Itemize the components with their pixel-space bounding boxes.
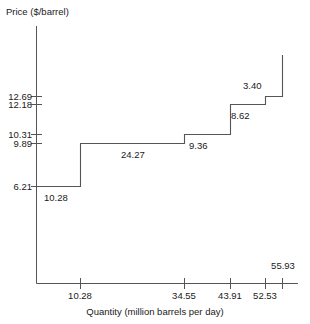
x-tick-label-10-28: 10.28 <box>50 290 110 301</box>
segment-width-label-24-27: 24.27 <box>121 149 145 160</box>
step-supply-curve-chart: Price ($/barrel) Quantity (million barre… <box>0 0 310 324</box>
x-tick-label-55-93: 55.93 <box>253 260 310 271</box>
axes-group <box>37 26 299 284</box>
x-tick-label-52-53: 52.53 <box>235 290 295 301</box>
segment-width-label-3-40: 3.40 <box>243 80 262 91</box>
segment-width-label-10-28: 10.28 <box>44 192 68 203</box>
segment-width-label-8-62: 8.62 <box>231 110 250 121</box>
x-axis-title: Quantity (million barrels per day) <box>0 306 310 317</box>
y-axis-title: Price ($/barrel) <box>6 6 69 17</box>
segment-width-label-9-36: 9.36 <box>189 140 208 151</box>
chart-canvas <box>0 0 310 324</box>
y-tick-label-12-18: 12.18 <box>0 99 32 110</box>
y-tick-label-6-21: 6.21 <box>0 181 32 192</box>
y-tick-label-9-89: 9.89 <box>0 138 32 149</box>
